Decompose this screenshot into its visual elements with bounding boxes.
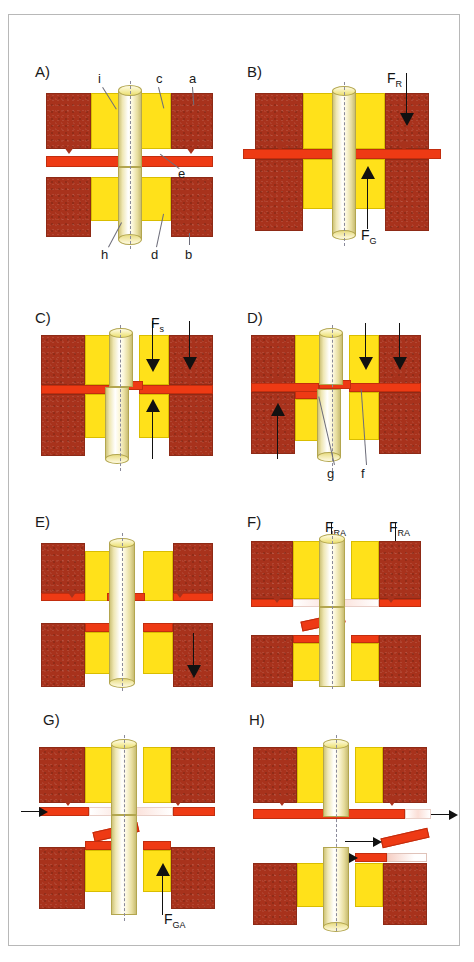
- panel-c: C) Fs: [21, 303, 231, 488]
- panel-d-up-arrowhead: [271, 403, 285, 416]
- panel-g-lower-plate-left: [85, 841, 113, 850]
- panel-g-side-load-arrowhead: [39, 807, 48, 817]
- panel-g-center-axis: [124, 735, 125, 921]
- panel-d: D) g f: [239, 303, 454, 488]
- panel-b-lower-right-block: [385, 159, 429, 231]
- figure-frame: A) i c a e h d b: [8, 14, 460, 946]
- panel-e-lower-plate-right: [143, 623, 173, 632]
- panel-h-lower-left-block: [253, 863, 297, 925]
- panel-g-upper-left-block: [39, 747, 85, 803]
- panel-b-upper-left-collar: [303, 93, 333, 149]
- panel-f-lower-right-block: [379, 635, 421, 687]
- panel-a-callout-h: h: [101, 247, 108, 262]
- panel-d-pin-upper: [319, 333, 343, 385]
- panel-b-force-fr-base: F: [387, 70, 396, 86]
- panel-e: E): [21, 493, 231, 688]
- panel-h-low-slip-arrowhead: [349, 853, 358, 863]
- panel-b-lower-left-block: [255, 159, 303, 231]
- panel-a-upper-left-notch: [64, 147, 74, 154]
- panel-b-force-fr-sub: R: [396, 79, 403, 89]
- panel-d-pin-lower-cap: [317, 452, 341, 462]
- panel-a-upper-right-block: [171, 93, 213, 149]
- panel-a-lower-left-collar: [91, 177, 119, 221]
- panel-g-plate-right: [173, 807, 215, 816]
- panel-b-force-fg-base: F: [361, 227, 370, 243]
- panel-e-upper-right-collar: [143, 551, 173, 601]
- panel-d-callout-f: f: [361, 466, 365, 481]
- panel-g-lower-plate-right: [143, 841, 171, 850]
- panel-h-mid-slip-shaft: [345, 841, 375, 842]
- panel-a-callout-a: a: [189, 71, 196, 86]
- panel-c-lower-right-block: [169, 394, 213, 456]
- panel-f-lower-left-block: [251, 635, 293, 687]
- panel-b-force-fg-shaft: [367, 179, 368, 229]
- panel-e-upper-left-notch: [67, 591, 77, 598]
- panel-e-lower-left-block: [41, 623, 85, 687]
- panel-d-inner-down-arrowhead: [359, 357, 373, 370]
- panel-h-lower-plate-left: [355, 853, 387, 862]
- panel-b-center-axis: [344, 82, 345, 246]
- panel-a-upper-left-block: [46, 93, 91, 149]
- panel-g-force-fga-arrowhead: [156, 863, 170, 876]
- panel-g-lower-right-block: [171, 847, 215, 909]
- panel-d-lower-left-block: [251, 392, 295, 454]
- panel-a-lower-right-collar: [141, 177, 171, 221]
- panel-g-force-fga-label: FGA: [164, 911, 186, 930]
- panel-c-center-axis: [120, 325, 121, 471]
- panel-d-outer-down-arrowhead: [393, 357, 407, 370]
- panel-h-lower-plate-sheared: [387, 853, 427, 862]
- panel-g-force-fga-sub: GA: [173, 920, 186, 930]
- panel-f-label: F): [247, 513, 261, 530]
- panel-g-upper-right-notch: [173, 799, 183, 806]
- panel-a-callout-i: i: [98, 71, 101, 86]
- panel-g-label: G): [43, 711, 60, 728]
- panel-c-force-fs-arrowhead: [146, 359, 160, 372]
- panel-f-lower-plate-left: [293, 635, 321, 643]
- panel-g: G) FGA: [21, 687, 236, 937]
- panel-b-force-fg-label: FG: [361, 227, 377, 246]
- panel-a-callout-d: d: [151, 247, 158, 262]
- panel-e-upper-plate-left: [41, 593, 85, 601]
- panel-d-callout-g: g: [327, 466, 334, 481]
- panel-a-upper-right-collar: [141, 93, 171, 149]
- panel-g-side-load-shaft: [21, 811, 41, 812]
- panel-h-lower-left-collar: [297, 863, 325, 907]
- panel-g-upper-left-notch: [63, 799, 73, 806]
- panel-d-up-shaft: [277, 415, 278, 459]
- panel-b-lower-left-collar: [303, 159, 333, 209]
- panel-a-label: A): [35, 63, 50, 80]
- panel-f-lower-left-collar: [293, 643, 321, 681]
- panel-h-upper-right-notch: [387, 799, 397, 806]
- panel-d-label: D): [247, 309, 263, 326]
- panel-a-callout-b: b: [185, 247, 192, 262]
- panel-b-force-fg-sub: G: [370, 236, 377, 246]
- panel-c-pin-lower: [105, 387, 129, 459]
- panel-c-outer-down-shaft: [189, 321, 190, 361]
- panel-f-upper-right-notch: [386, 596, 396, 603]
- panel-b-force-fr-label: FR: [387, 70, 402, 89]
- panel-a-upper-right-notch: [186, 147, 196, 154]
- panel-h-label: H): [249, 711, 265, 728]
- panel-f-force-fra2-label: FRA: [389, 519, 410, 538]
- panel-b: B) FR FG: [239, 49, 449, 289]
- panel-g-upper-left-collar: [85, 747, 113, 803]
- panel-a-lower-left-block: [46, 177, 91, 237]
- panel-c-upper-left-block: [41, 335, 85, 385]
- panel-c-lower-left-block: [41, 394, 85, 456]
- panel-h-mid-slip-arrowhead: [373, 837, 382, 847]
- panel-e-label: E): [35, 513, 50, 530]
- panel-g-force-fga-base: F: [164, 911, 173, 927]
- panel-d-outer-down-shaft: [399, 323, 400, 361]
- panel-a-lead-b: [189, 233, 190, 245]
- panel-h-lower-right-collar: [355, 863, 383, 907]
- panel-e-lower-right-collar: [143, 632, 173, 674]
- panel-e-upper-right-notch: [175, 591, 185, 598]
- panel-h-plate-fragment: [380, 828, 429, 849]
- panel-h-upper-left-block: [253, 747, 297, 803]
- panel-b-label: B): [247, 63, 262, 80]
- panel-h: H): [241, 687, 459, 937]
- panel-g-lower-left-block: [39, 847, 85, 909]
- panel-g-upper-right-block: [171, 747, 215, 803]
- panel-c-force-fs-shaft: [152, 321, 153, 363]
- panel-h-top-slip-arrowhead: [449, 810, 458, 820]
